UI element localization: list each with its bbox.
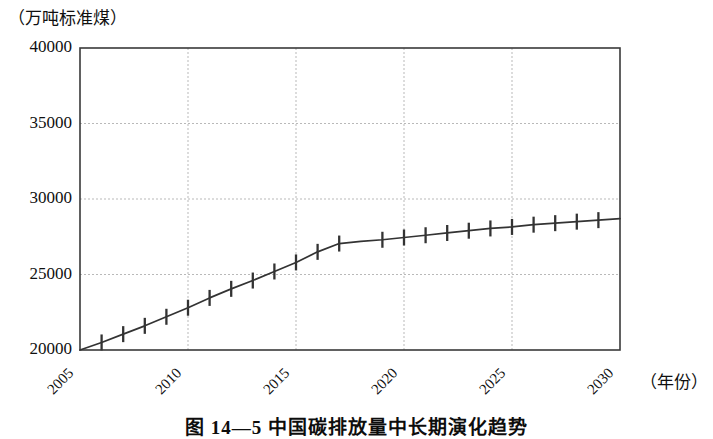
y-tick-label: 25000 <box>4 264 72 284</box>
y-tick-label: 30000 <box>4 188 72 208</box>
x-axis-unit-label: （年份） <box>640 368 708 393</box>
y-tick-label: 40000 <box>4 37 72 57</box>
figure-caption: 图 14—5 中国碳排放量中长期演化趋势 <box>0 412 713 439</box>
y-tick-label: 20000 <box>4 339 72 359</box>
y-tick-label: 35000 <box>4 113 72 133</box>
data-line-group <box>80 219 620 350</box>
data-marker-group <box>102 212 599 350</box>
gridlines-group <box>80 48 620 350</box>
